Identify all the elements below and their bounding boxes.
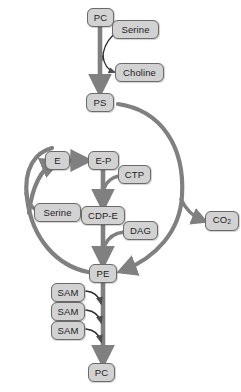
node-label: PS [94, 98, 107, 108]
node-pc-top[interactable]: PC [87, 8, 114, 27]
node-label: CO2 [213, 215, 231, 226]
node-label: PC [94, 13, 107, 23]
node-pc-bottom[interactable]: PC [88, 363, 115, 382]
edge-sam-2-in [86, 310, 101, 322]
pathway-edges-layer [0, 0, 241, 392]
node-ctp[interactable]: CTP [118, 165, 151, 184]
node-label: PC [95, 368, 108, 378]
node-label: E-P [95, 156, 111, 166]
edge-cycle-right-arc [118, 104, 182, 270]
node-label-subscript: 2 [227, 219, 231, 226]
node-pe[interactable]: PE [89, 264, 117, 283]
node-serine-top[interactable]: Serine [112, 20, 159, 39]
node-label: SAM [58, 288, 79, 298]
node-sam-2[interactable]: SAM [51, 302, 85, 321]
node-cdp-e[interactable]: CDP-E [81, 206, 125, 225]
node-sam-1[interactable]: SAM [51, 283, 85, 302]
node-ep[interactable]: E-P [88, 151, 119, 170]
edge-dag-in [105, 232, 124, 245]
node-dag[interactable]: DAG [123, 221, 158, 240]
edge-to-co2 [181, 199, 202, 220]
node-label: PE [97, 269, 110, 279]
node-label: E [54, 156, 60, 166]
pathway-diagram: PC Serine Choline PS E E-P CTP Serine CD… [0, 0, 241, 392]
node-label: Choline [123, 68, 156, 78]
node-label: DAG [130, 226, 151, 236]
node-e[interactable]: E [45, 151, 70, 170]
node-label: Serine [121, 25, 149, 35]
node-label: Serine [43, 208, 71, 218]
node-ps[interactable]: PS [86, 93, 114, 112]
edge-serine-top-in [103, 34, 114, 60]
node-sam-3[interactable]: SAM [51, 321, 85, 340]
node-co2[interactable]: CO2 [205, 211, 239, 231]
edge-sam-3-in [86, 329, 101, 341]
node-serine-mid[interactable]: Serine [34, 203, 81, 222]
node-choline[interactable]: Choline [115, 63, 164, 82]
edge-sam-1-in [86, 291, 101, 303]
node-label: SAM [58, 326, 79, 336]
node-label: CTP [125, 170, 144, 180]
node-label: CDP-E [88, 211, 118, 221]
edge-to-choline [103, 56, 114, 72]
node-label: SAM [58, 307, 79, 317]
